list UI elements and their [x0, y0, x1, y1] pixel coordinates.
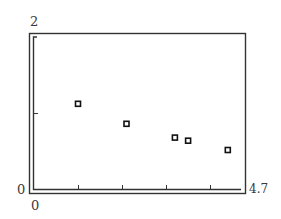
data-point-marker: [186, 138, 191, 143]
y-min-label: 0: [17, 184, 25, 196]
y-axis: [34, 37, 242, 190]
axes: [34, 37, 242, 190]
data-point-marker: [225, 148, 230, 153]
y-max-label: 2: [30, 16, 38, 28]
data-point-marker: [124, 121, 129, 126]
outer-frame: [30, 34, 246, 194]
scatter-plot: [0, 0, 281, 219]
axis-ticks: [34, 114, 211, 190]
data-points: [76, 101, 231, 152]
data-point-marker: [76, 101, 81, 106]
x-min-label: 0: [31, 200, 39, 212]
data-point-marker: [172, 135, 177, 140]
x-max-label: 4.7: [249, 183, 268, 195]
